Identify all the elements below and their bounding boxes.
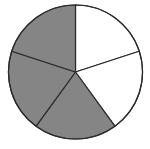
pie-chart <box>0 0 150 149</box>
pie-slices <box>9 5 143 139</box>
